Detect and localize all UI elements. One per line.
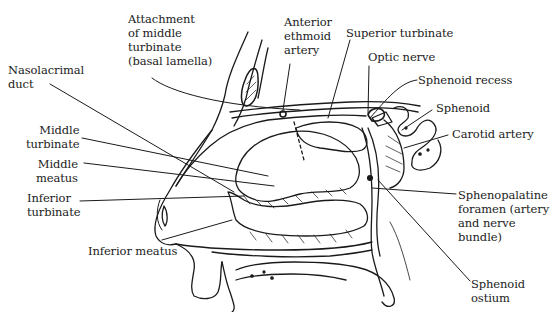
sphenoid-sinus [362, 120, 404, 296]
label-optic-nerve: Optic nerve [368, 50, 435, 64]
anatomy-drawing [0, 0, 550, 312]
palate [212, 222, 410, 306]
middle-turbinate-shape [236, 131, 360, 208]
label-anterior-ethmoid-artery: Anterior ethmoid artery [284, 15, 332, 57]
label-inferior-meatus: Inferior meatus [88, 244, 177, 258]
label-nasolacrimal-duct: Nasolacrimal duct [8, 63, 84, 91]
label-carotid-artery: Carotid artery [452, 127, 534, 141]
label-sphenoid-recess: Sphenoid recess [418, 73, 512, 87]
inferior-turbinate-shape [228, 192, 367, 243]
label-middle-turbinate: Middle turbinate [26, 123, 79, 151]
label-attachment-middle-turbinate: Attachment of middle turbinate (basal la… [128, 12, 212, 68]
label-sphenopalatine-foramen: Sphenopalatine foramen (artery and nerve… [458, 188, 549, 244]
label-middle-meatus: Middle meatus [36, 157, 78, 185]
sphenoid-bone [394, 107, 441, 170]
label-sphenoid: Sphenoid [436, 101, 490, 115]
label-sphenoid-ostium: Sphenoid ostium [471, 277, 525, 305]
label-inferior-turbinate: Inferior turbinate [27, 191, 80, 219]
superior-turbinate-shape [294, 122, 367, 160]
label-superior-turbinate: Superior turbinate [346, 26, 453, 40]
nasal-anatomy-diagram: Attachment of middle turbinate (basal la… [0, 0, 550, 312]
